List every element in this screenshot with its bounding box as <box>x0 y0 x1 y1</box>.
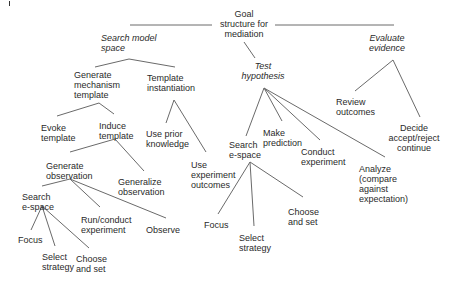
node-focus-left: Focus <box>18 235 43 245</box>
node-focus-right: Focus <box>204 220 229 230</box>
node-select-strategy-left: Select strategy <box>42 252 74 272</box>
node-template-instantiation: Template instantiation <box>147 73 195 93</box>
node-analyze: Analyze (compare against expectation) <box>359 164 408 204</box>
node-review-outcomes: Review outcomes <box>336 97 375 117</box>
node-test-hypothesis: Test hypothesis <box>238 61 288 81</box>
node-use-prior-knowledge: Use prior knowledge <box>146 129 189 149</box>
node-use-experiment-outcomes: Use experiment outcomes <box>191 160 236 190</box>
node-evoke-template: Evoke template <box>41 123 76 143</box>
node-make-prediction: Make prediction <box>263 128 302 148</box>
node-generate-mechanism-template: Generate mechanism template <box>74 70 120 100</box>
node-choose-and-set-right: Choose and set <box>288 207 319 227</box>
goal-structure-diagram: Goal structure for mediation Search mode… <box>0 0 454 283</box>
node-search-e-space-right: Search e-space <box>229 140 261 160</box>
node-generalize-observation: Generalize observation <box>118 177 165 197</box>
node-select-strategy-right: Select strategy <box>239 233 271 253</box>
node-observe: Observe <box>146 225 180 235</box>
node-goal-structure: Goal structure for mediation <box>212 9 276 39</box>
node-conduct-experiment: Conduct experiment <box>301 147 346 167</box>
node-search-e-space-left: Search e-space <box>22 192 54 212</box>
node-search-model-space: Search model space <box>101 33 157 53</box>
node-induce-template: Induce template <box>99 121 134 141</box>
node-evaluate-evidence: Evaluate evidence <box>362 33 412 53</box>
node-decide: Decide accept/reject continue <box>384 123 444 153</box>
node-generate-observation: Generate observation <box>46 161 93 181</box>
node-choose-and-set-left: Choose and set <box>76 254 107 274</box>
node-run-conduct-experiment: Run/conduct experiment <box>81 215 132 235</box>
